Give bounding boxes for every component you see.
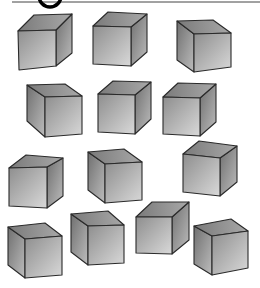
cube-front-face bbox=[163, 97, 200, 136]
cube-front-face bbox=[18, 30, 56, 70]
cube-front-face bbox=[45, 96, 82, 137]
cube-5 bbox=[98, 81, 151, 134]
cube-13 bbox=[194, 219, 248, 275]
cube-11 bbox=[71, 211, 124, 265]
header-frame bbox=[12, 0, 260, 7]
cube-front-face bbox=[212, 231, 248, 275]
cube-8 bbox=[88, 149, 142, 203]
cube-4 bbox=[27, 84, 82, 137]
cube-6 bbox=[163, 83, 216, 136]
cube-7 bbox=[9, 155, 63, 208]
cube-2 bbox=[93, 12, 147, 66]
cube-worksheet-canvas bbox=[0, 0, 260, 288]
cube-front-face bbox=[88, 225, 124, 265]
cube-front-face bbox=[194, 33, 231, 72]
header-arc-glyph bbox=[39, 0, 61, 7]
cube-1 bbox=[18, 14, 72, 70]
cube-9 bbox=[183, 141, 237, 196]
cube-12 bbox=[136, 202, 189, 254]
cube-front-face bbox=[93, 26, 131, 66]
cube-3 bbox=[177, 20, 231, 72]
cube-front-face bbox=[183, 154, 220, 196]
cube-front-face bbox=[136, 217, 172, 254]
cube-front-face bbox=[105, 162, 142, 203]
cube-front-face bbox=[98, 94, 135, 134]
cube-10 bbox=[8, 223, 62, 278]
cube-front-face bbox=[9, 167, 47, 208]
cube-front-face bbox=[25, 236, 62, 278]
cube-group bbox=[8, 12, 248, 278]
